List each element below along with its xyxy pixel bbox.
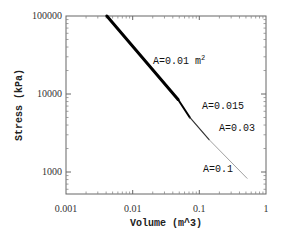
x-tick-label: 0.01: [124, 203, 142, 214]
y-tick-label: 100000: [32, 10, 62, 21]
y-axis-title: Stress (kPa): [14, 69, 25, 141]
y-tick-label: 1000: [42, 166, 62, 177]
annotation-a0015: A=0.015: [202, 101, 244, 112]
x-axis-title: Volume (m^3): [130, 218, 202, 229]
x-tick-label: 1: [264, 203, 269, 214]
annotation-a01: A=0.1: [203, 164, 233, 175]
x-tick-label: 0.001: [55, 203, 78, 214]
x-ticks: [133, 16, 200, 194]
x-tick-label: 0.1: [193, 203, 206, 214]
annotation-a003: A=0.03: [219, 123, 255, 134]
annotation-a001: A=0.01 m2: [153, 54, 205, 67]
data-series: [107, 16, 247, 178]
y-tick-label: 10000: [37, 88, 62, 99]
stress-volume-chart: 0.001 0.01 0.1 1 1000 10000 100000 Volum…: [0, 0, 287, 238]
series-line: [178, 100, 190, 118]
series-line: [190, 117, 209, 139]
